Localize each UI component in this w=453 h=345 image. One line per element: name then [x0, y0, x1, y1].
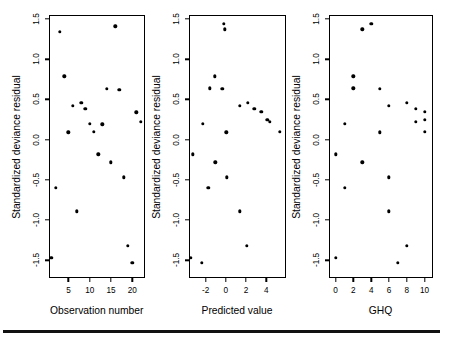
x-axis-tick — [388, 278, 389, 282]
x-axis-tick-label: 10 — [420, 287, 429, 295]
y-axis-tick-label: 0.0 — [312, 134, 320, 145]
x-axis-tick — [424, 278, 425, 282]
y-axis-tick-label: -1.0 — [32, 213, 40, 227]
y-axis-tick — [325, 139, 329, 140]
x-axis-tick — [225, 278, 226, 282]
y-axis-tick — [185, 59, 189, 60]
x-axis-tick — [406, 278, 407, 282]
x-axis-tick — [266, 278, 267, 282]
y-axis-tick — [185, 260, 189, 261]
y-axis-tick — [185, 139, 189, 140]
x-axis-tick-label: 6 — [387, 287, 392, 295]
y-axis-tick-label: -0.5 — [32, 173, 40, 187]
x-axis-tick-label: 2 — [351, 287, 356, 295]
x-axis-title: Observation number — [50, 305, 143, 316]
x-axis-tick-label: 4 — [264, 287, 269, 295]
y-axis-tick-label: -0.5 — [312, 173, 320, 187]
y-axis-tick — [325, 99, 329, 100]
y-axis-tick-label: -1.5 — [172, 253, 180, 267]
x-axis-tick-label: -2 — [202, 287, 209, 295]
x-axis-tick — [353, 278, 354, 282]
x-axis-tick-label: 2 — [244, 287, 249, 295]
x-axis-tick-label: 15 — [106, 287, 115, 295]
y-axis-tick — [45, 179, 49, 180]
x-axis-tick — [370, 278, 371, 282]
y-axis-tick-label: 1.5 — [172, 13, 180, 24]
y-axis-tick-label: 0.5 — [312, 94, 320, 105]
y-axis-tick — [185, 179, 189, 180]
y-axis-tick-label: 1.5 — [32, 13, 40, 24]
y-axis-tick-label: 1.0 — [32, 54, 40, 65]
y-axis-tick-label: -1.5 — [32, 253, 40, 267]
y-axis-tick — [45, 18, 49, 19]
y-axis-tick — [45, 139, 49, 140]
y-axis-tick — [185, 219, 189, 220]
x-axis-tick — [89, 278, 90, 282]
bottom-horizontal-rule — [3, 330, 440, 333]
y-axis-title: Standardized deviance residual — [290, 75, 301, 219]
x-axis-tick-label: 4 — [369, 287, 374, 295]
y-axis-tick-label: 0.0 — [172, 134, 180, 145]
x-axis-tick — [335, 278, 336, 282]
y-axis-tick — [185, 99, 189, 100]
x-axis-title: Predicted value — [202, 305, 273, 316]
x-axis-tick-label: 5 — [66, 287, 71, 295]
x-axis-tick-label: 10 — [85, 287, 94, 295]
y-axis-tick — [325, 59, 329, 60]
x-axis-tick — [245, 278, 246, 282]
y-axis-tick — [325, 219, 329, 220]
residual-diagnostics-figure: -1.5-1.0-0.50.00.51.01.55101520Observati… — [0, 0, 453, 345]
y-axis-title: Standardized deviance residual — [150, 75, 161, 219]
plot-area — [329, 15, 433, 278]
y-axis-tick — [45, 99, 49, 100]
y-axis-tick-label: 0.0 — [32, 134, 40, 145]
y-axis-tick — [45, 59, 49, 60]
y-axis-tick-label: -1.0 — [312, 213, 320, 227]
plot-area — [49, 15, 146, 278]
x-axis-tick — [205, 278, 206, 282]
y-axis-tick — [45, 260, 49, 261]
x-axis-tick — [132, 278, 133, 282]
y-axis-tick-label: 1.0 — [312, 54, 320, 65]
y-axis-tick-label: 1.0 — [172, 54, 180, 65]
y-axis-tick-label: -0.5 — [172, 173, 180, 187]
y-axis-tick — [325, 260, 329, 261]
y-axis-tick — [325, 179, 329, 180]
x-axis-tick-label: 0 — [333, 287, 338, 295]
x-axis-title: GHQ — [369, 305, 392, 316]
y-axis-tick-label: -1.5 — [312, 253, 320, 267]
y-axis-tick-label: 1.5 — [312, 13, 320, 24]
x-axis-tick — [68, 278, 69, 282]
x-axis-tick-label: 0 — [224, 287, 229, 295]
x-axis-tick-label: 8 — [404, 287, 409, 295]
y-axis-tick-label: 0.5 — [172, 94, 180, 105]
y-axis-tick — [185, 18, 189, 19]
y-axis-tick — [325, 18, 329, 19]
y-axis-title: Standardized deviance residual — [10, 75, 21, 219]
y-axis-tick — [45, 219, 49, 220]
y-axis-tick-label: -1.0 — [172, 213, 180, 227]
x-axis-tick-label: 20 — [128, 287, 137, 295]
x-axis-tick — [110, 278, 111, 282]
plot-area — [189, 15, 286, 278]
y-axis-tick-label: 0.5 — [32, 94, 40, 105]
